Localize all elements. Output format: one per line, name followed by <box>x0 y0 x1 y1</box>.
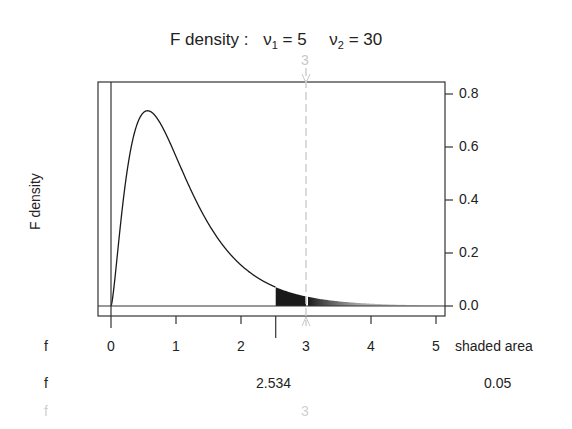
plot-frame <box>98 82 445 316</box>
plot-canvas <box>0 0 572 429</box>
density-curve <box>111 111 275 306</box>
shaded-region-dark <box>276 287 306 306</box>
shaded-area-value: 0.05 <box>484 375 511 391</box>
y-tick-label: 0.6 <box>459 138 478 154</box>
x-tick-label: 2 <box>237 338 245 354</box>
y-tick-label: 0.0 <box>459 297 478 313</box>
marker-value: 3 <box>301 403 309 419</box>
y-tick-label: 0.8 <box>459 85 478 101</box>
marker-row-label: f <box>44 403 48 419</box>
y-tick-label: 0.2 <box>459 244 478 260</box>
x-tick-label: 1 <box>172 338 180 354</box>
axis-row-label: f <box>44 338 48 354</box>
critical-row-label: f <box>44 375 48 391</box>
y-tick-label: 0.4 <box>459 191 478 207</box>
x-tick-label: 4 <box>367 338 375 354</box>
shaded-area-header: shaded area <box>455 338 533 354</box>
plot-title: F density : ν1 = 5 ν2 = 30 <box>170 30 382 51</box>
shaded-region-tail <box>308 297 446 306</box>
x-tick-label: 3 <box>302 338 310 354</box>
y-axis-label: F density <box>27 173 43 230</box>
f-density-plot: F density : ν1 = 5 ν2 = 30 3 F density 0… <box>0 0 572 429</box>
x-tick-label: 5 <box>432 338 440 354</box>
marker-top-label: 3 <box>301 52 309 68</box>
critical-value: 2.534 <box>256 375 291 391</box>
x-tick-label: 0 <box>107 338 115 354</box>
